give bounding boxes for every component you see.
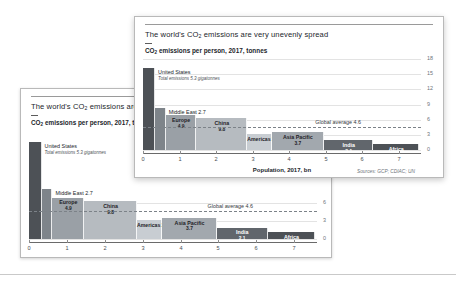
x-axis-tick: 6 [246,245,266,251]
y-axis-tick: 18 [427,55,433,61]
bar-label-india: India2.1 [217,230,268,241]
bar-middle-east[interactable] [42,189,53,239]
x-axis-tick: 1 [57,245,77,251]
global-average-label: Global average 4.6 [315,119,361,125]
x-axis-tick: 7 [284,245,304,251]
x-tick-mark [143,151,144,154]
y-axis-tick: 6 [427,116,430,122]
x-tick-mark [180,151,181,154]
x-tick-mark [105,240,106,243]
x-axis-tick: 5 [316,156,336,162]
bar-united-states[interactable] [29,142,42,239]
x-tick-mark [143,240,144,243]
back-x-axis-label: Population, 2017, bn [29,256,317,258]
x-tick-mark [67,240,68,243]
back-card-dash [31,115,38,116]
global-average-line [143,127,421,128]
annotation-middle-east: Middle East 2.7 [55,190,92,197]
front-card-inner: The world's CO2 emissions are very uneve… [135,17,443,177]
global-average-line [29,211,317,212]
bar-label-asia-pacific: Asia Pacific3.7 [272,135,324,146]
gridline [143,59,421,60]
front-plot-area: 1815129630Europe4.9China9.8Americas 2.4A… [143,59,421,150]
bar-label-asia-pacific: Asia Pacific3.7 [162,221,216,232]
x-axis-tick: 0 [134,156,153,162]
front-card-top-rule [145,24,433,25]
x-axis-tick: 0 [20,245,39,251]
x-tick-mark [253,151,254,154]
gridline [143,89,421,90]
x-tick-mark [218,240,219,243]
x-tick-mark [256,240,257,243]
x-axis-tick: 3 [133,245,153,251]
x-axis-tick: 5 [208,245,228,251]
x-tick-mark [294,240,295,243]
x-tick-mark [326,151,327,154]
front-card-dash [145,43,152,44]
x-tick-mark [216,151,217,154]
x-tick-mark [289,151,290,154]
bar-label-americas: Americas 2.4 [247,137,272,143]
x-axis-tick: 4 [279,156,299,162]
x-tick-mark [399,151,400,154]
x-axis-tick: 3 [243,156,263,162]
screenshot-stage: The world's CO2 emissions are ver CO2 em… [0,0,456,281]
annotation-united-states: United StatesTotal emissions 5.3 gigaton… [45,143,107,155]
front-card-title: The world's CO2 emissions are very uneve… [145,30,435,39]
x-tick-mark [181,240,182,243]
x-axis-line [143,153,421,154]
y-axis-tick: 3 [427,131,430,137]
bar-middle-east[interactable] [155,108,166,150]
front-chart-card[interactable]: The world's CO2 emissions are very uneve… [134,16,444,178]
x-axis-tick: 2 [95,245,115,251]
y-axis-tick: 0 [427,146,430,152]
x-axis-tick: 6 [352,156,372,162]
bar-label-china: China9.8 [84,204,137,215]
bar-united-states[interactable] [143,68,155,150]
x-axis-tick: 2 [206,156,226,162]
y-axis-tick: 0 [323,235,326,241]
gridline [143,105,421,106]
global-average-label: Global average 4.6 [208,203,254,209]
front-card-subtitle: CO2 emissions per person, 2017, tonnes [145,47,267,55]
x-tick-mark [29,240,30,243]
y-axis-tick: 6 [323,199,326,205]
bar-label-europe: Europe4.9 [52,200,84,211]
annotation-united-states: United StatesTotal emissions 5.3 gigaton… [158,69,220,81]
y-axis-tick: 12 [427,85,433,91]
x-axis-tick: 4 [171,245,191,251]
x-tick-mark [362,151,363,154]
y-axis-tick: 15 [427,70,433,76]
y-axis-tick: 9 [427,101,430,107]
bar-label-americas: Americas 2.4 [137,223,162,229]
x-axis-line [29,242,317,243]
x-axis-tick: 7 [389,156,409,162]
page-bottom-rule [0,274,456,281]
x-axis-tick: 1 [170,156,190,162]
y-axis-tick: 3 [323,217,326,223]
annotation-middle-east: Middle East 2.7 [169,109,206,116]
front-source-note: Sources: GCP; CDIAC; UN [357,169,415,174]
